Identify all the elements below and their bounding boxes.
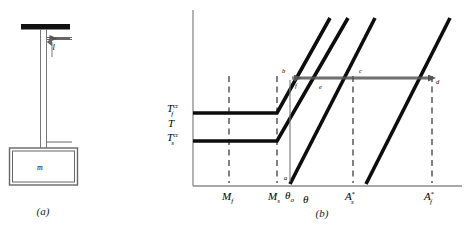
figure-container: l m (a) [0, 0, 468, 235]
transformation-span-arrow [292, 77, 430, 79]
x-tick-mf-sub: f [231, 197, 234, 205]
panel-b-caption: (b) [316, 207, 329, 220]
x-tick-label-af: A*f [423, 190, 434, 206]
length-dimension-arrow [47, 38, 72, 143]
x-tick-theta-sub: o [290, 196, 294, 204]
mass-label: m [37, 163, 43, 172]
x-tick-as-sup: * [352, 190, 355, 197]
x-tick-ms-sub: s [277, 197, 280, 205]
x-tick-label-as: A*s [344, 190, 355, 206]
point-label-a: a [284, 174, 287, 181]
svg-text:A*f: A*f [423, 190, 434, 206]
vertical-wire [41, 29, 47, 148]
transformation-boundaries [193, 18, 450, 184]
point-label-d: d [436, 78, 440, 85]
figure-svg: l m (a) [0, 0, 468, 235]
svg-text:Tcrf: Tcrf [167, 102, 179, 118]
y-tick-ts-sub: s [171, 139, 174, 147]
x-tick-label-mf: Mf [221, 190, 234, 205]
x-tick-as-sub: s [351, 198, 354, 206]
panel-b: b f e c d a Tcrf Tcrs T Mf [167, 10, 462, 220]
y-tick-tf-sup: cr [173, 102, 179, 109]
curve-martensite-finish [193, 18, 330, 113]
point-label-e: e [319, 83, 322, 90]
x-tick-label-theta-o: θo [285, 189, 294, 204]
length-label: l [53, 42, 56, 52]
y-tick-label-ts: Tcrs [167, 131, 179, 147]
y-axis-label: T [168, 117, 175, 129]
point-label-b: b [282, 67, 286, 74]
curve-austenite-finish [366, 18, 450, 184]
hanging-mass-block [10, 148, 78, 185]
panel-a-caption: (a) [37, 205, 50, 218]
point-label-c: c [359, 67, 362, 74]
x-tick-af-sub: f [430, 198, 433, 206]
svg-text:Mf: Mf [221, 190, 234, 205]
curve-martensite-start [193, 18, 348, 141]
x-tick-af-sup: * [431, 190, 434, 197]
point-label-f: f [295, 82, 298, 89]
svg-text:θo: θo [285, 189, 294, 204]
y-tick-ts-sup: cr [173, 131, 179, 138]
svg-text:Ms: Ms [267, 190, 280, 205]
x-axis-label: θ [303, 193, 309, 205]
svg-text:A*s: A*s [344, 190, 355, 206]
dashed-verticals [229, 76, 432, 183]
y-tick-label-tf: Tcrf [167, 102, 179, 118]
fixed-support-bar [21, 24, 70, 30]
svg-text:Tcrs: Tcrs [167, 131, 179, 147]
x-tick-label-ms: Ms [267, 190, 280, 205]
panel-a: l m (a) [10, 24, 78, 218]
